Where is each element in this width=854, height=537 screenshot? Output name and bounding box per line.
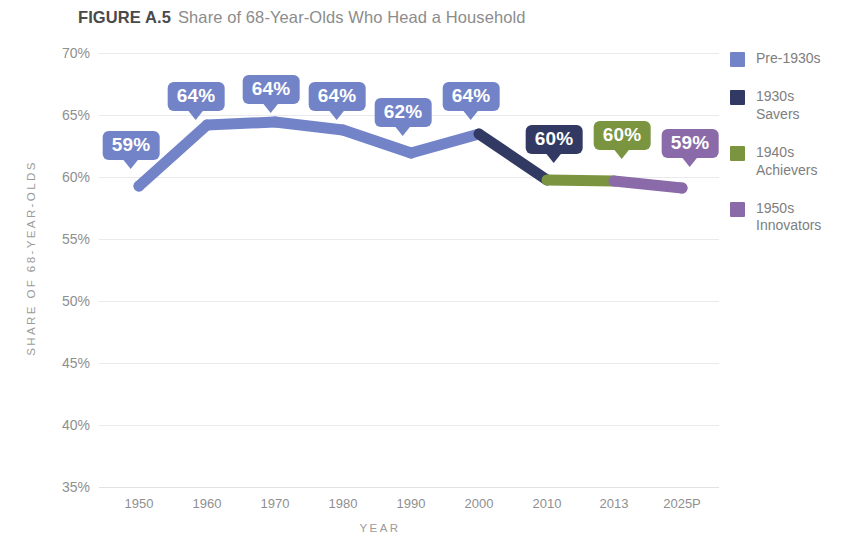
gridline-50 bbox=[99, 301, 719, 302]
legend-item-pre-1930s[interactable]: Pre-1930s bbox=[730, 50, 848, 68]
figure-title: FIGURE A.5Share of 68-Year-Olds Who Head… bbox=[78, 8, 526, 27]
legend-item-label: 1940s Achievers bbox=[756, 144, 817, 180]
data-label-1970: 64% bbox=[243, 75, 300, 113]
gridline-60 bbox=[99, 177, 719, 178]
legend-item-label: 1950s Innovators bbox=[756, 200, 821, 236]
data-label-2025P: 59% bbox=[662, 129, 719, 167]
legend-item-1930s-savers[interactable]: 1930s Savers bbox=[730, 88, 848, 124]
data-label-2010: 60% bbox=[526, 125, 583, 163]
data-label-pointer bbox=[682, 157, 698, 167]
y-tick-label: 50% bbox=[44, 293, 90, 309]
gridline-35 bbox=[99, 487, 719, 488]
x-tick-label: 1950 bbox=[125, 496, 154, 511]
legend-swatch-icon bbox=[730, 146, 745, 161]
x-tick-label: 1960 bbox=[193, 496, 222, 511]
x-axis-title: YEAR bbox=[0, 522, 760, 534]
data-label-pointer bbox=[263, 103, 279, 113]
gridline-55 bbox=[99, 239, 719, 240]
x-tick-label: 1970 bbox=[261, 496, 290, 511]
data-label-pointer bbox=[395, 126, 411, 136]
x-tick-label: 2013 bbox=[600, 496, 629, 511]
data-label-value: 60% bbox=[526, 125, 583, 154]
chart-legend: Pre-1930s1930s Savers1940s Achievers1950… bbox=[730, 50, 848, 255]
y-tick-label: 35% bbox=[44, 479, 90, 495]
data-label-pointer bbox=[463, 110, 479, 120]
line-endpoint-2025P bbox=[677, 183, 688, 194]
y-tick-label: 70% bbox=[44, 45, 90, 61]
data-label-1950: 59% bbox=[103, 131, 160, 169]
y-tick-label: 60% bbox=[44, 169, 90, 185]
data-label-1960: 64% bbox=[168, 82, 225, 120]
y-axis-ticks: 70%65%60%55%50%45%40%35% bbox=[44, 0, 90, 537]
data-label-pointer bbox=[614, 149, 630, 159]
x-tick-label: 1980 bbox=[329, 496, 358, 511]
data-label-value: 59% bbox=[662, 129, 719, 158]
legend-item-label: Pre-1930s bbox=[756, 50, 821, 68]
data-label-2000: 64% bbox=[443, 82, 500, 120]
x-tick-label: 2025P bbox=[663, 496, 701, 511]
gridline-70 bbox=[99, 53, 719, 54]
legend-item-1940s-achievers[interactable]: 1940s Achievers bbox=[730, 144, 848, 180]
y-tick-label: 45% bbox=[44, 355, 90, 371]
y-axis-title: SHARE OF 68-YEAR-OLDS bbox=[25, 143, 37, 373]
line-segment-2013-2025P bbox=[614, 181, 682, 188]
legend-item-1950s-innovators[interactable]: 1950s Innovators bbox=[730, 200, 848, 236]
y-tick-label: 65% bbox=[44, 107, 90, 123]
data-label-pointer bbox=[546, 153, 562, 163]
data-label-value: 59% bbox=[103, 131, 160, 160]
data-label-value: 64% bbox=[443, 82, 500, 111]
line-segment-1970-1980 bbox=[275, 122, 343, 130]
legend-swatch-icon bbox=[730, 52, 745, 67]
x-tick-label: 2000 bbox=[465, 496, 494, 511]
y-tick-label: 40% bbox=[44, 417, 90, 433]
legend-swatch-icon bbox=[730, 202, 745, 217]
data-label-pointer bbox=[329, 110, 345, 120]
figure-container: FIGURE A.5Share of 68-Year-Olds Who Head… bbox=[0, 0, 854, 537]
legend-item-label: 1930s Savers bbox=[756, 88, 800, 124]
line-segment-1990-2000 bbox=[411, 134, 479, 153]
data-label-pointer bbox=[123, 159, 139, 169]
line-segment-1960-1970 bbox=[207, 122, 275, 125]
data-label-value: 64% bbox=[309, 82, 366, 111]
data-label-value: 64% bbox=[168, 82, 225, 111]
line-chart-plot bbox=[0, 0, 854, 537]
data-label-2013: 60% bbox=[594, 121, 651, 159]
figure-title-text: Share of 68-Year-Olds Who Head a Househo… bbox=[178, 8, 526, 26]
figure-number: FIGURE A.5 bbox=[78, 8, 171, 26]
x-tick-label: 2010 bbox=[533, 496, 562, 511]
gridline-40 bbox=[99, 425, 719, 426]
data-label-1980: 64% bbox=[309, 82, 366, 120]
legend-swatch-icon bbox=[730, 90, 745, 105]
line-endpoint-1950 bbox=[134, 181, 145, 192]
data-label-value: 62% bbox=[375, 98, 432, 127]
data-label-pointer bbox=[188, 110, 204, 120]
data-label-value: 64% bbox=[243, 75, 300, 104]
x-tick-label: 1990 bbox=[397, 496, 426, 511]
line-segment-2010-2013 bbox=[547, 180, 614, 181]
data-label-value: 60% bbox=[594, 121, 651, 150]
gridline-45 bbox=[99, 363, 719, 364]
y-tick-label: 55% bbox=[44, 231, 90, 247]
data-label-1990: 62% bbox=[375, 98, 432, 136]
